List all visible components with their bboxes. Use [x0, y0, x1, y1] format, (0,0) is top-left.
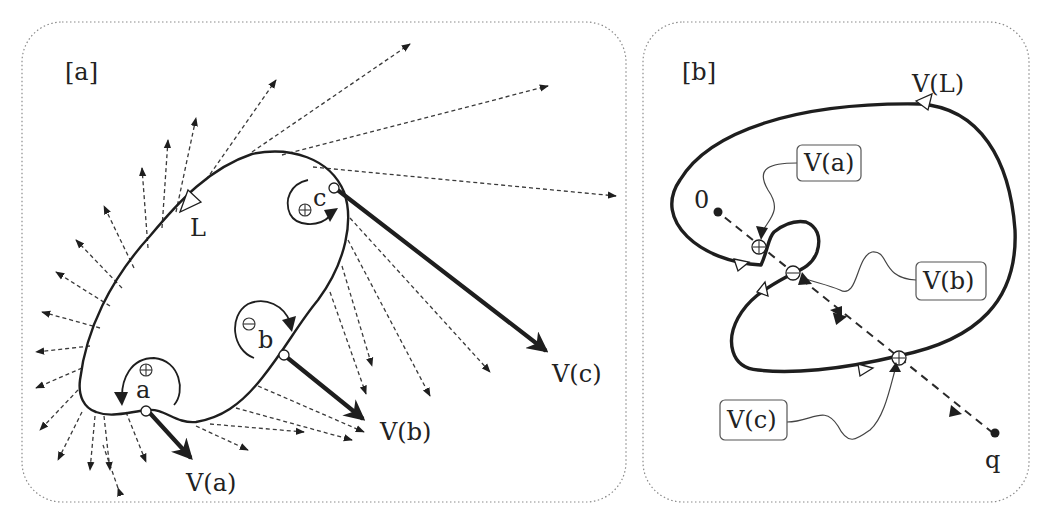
sign-minus-icon	[243, 318, 255, 330]
curve-L-direction-icon	[180, 190, 201, 212]
curve-VL-label: V(L)	[911, 70, 964, 98]
callout-Vc-label: V(c)	[726, 406, 777, 434]
vector-c-arrow	[335, 188, 545, 350]
rotation-a: a	[114, 358, 180, 406]
point-b-label: b	[258, 326, 273, 354]
curve-VL-direction-icon	[858, 364, 873, 376]
vector-b-arrow	[284, 355, 362, 418]
curve-L	[80, 152, 349, 423]
curve-VL	[672, 104, 1015, 372]
vector-c-label: V(c)	[551, 360, 602, 388]
point-c	[329, 183, 339, 193]
rotation-b: b	[235, 301, 296, 358]
curve-L-label: L	[190, 214, 206, 242]
intersection-b-minus-icon	[786, 266, 800, 280]
callout-Vb-label: V(b)	[922, 267, 974, 295]
query-label: q	[985, 446, 1000, 474]
callout-Va-label: V(a)	[803, 149, 854, 177]
callout-Vc: V(c)	[720, 362, 901, 440]
panel-b: [b] V(L) 0 q	[643, 22, 1029, 502]
point-a	[141, 406, 151, 416]
vector-field-arrows	[36, 44, 616, 488]
sign-plus-icon	[299, 204, 311, 216]
point-c-label: c	[313, 184, 326, 212]
callout-Vb: V(b)	[798, 252, 986, 300]
panel-a: L a b	[22, 22, 626, 502]
point-b	[279, 350, 289, 360]
query-point	[991, 429, 1000, 438]
origin-point	[714, 208, 723, 217]
point-a-label: a	[136, 376, 150, 404]
rotation-b-arrow-icon	[282, 316, 296, 332]
panel-b-label: [b]	[682, 58, 716, 86]
vector-b-label: V(b)	[379, 418, 431, 446]
panel-a-label: [a]	[65, 58, 98, 86]
vector-a-label: V(a)	[185, 469, 236, 497]
rotation-a-arrow-icon	[114, 392, 128, 406]
diagram-canvas: L a b	[0, 0, 1050, 527]
vector-a-arrow	[148, 411, 190, 457]
callout-Va: V(a)	[756, 145, 861, 240]
intersection-a-plus-icon	[752, 240, 766, 254]
origin-label: 0	[694, 186, 709, 214]
intersection-c-plus-icon	[892, 351, 906, 365]
sign-plus-icon	[140, 364, 152, 376]
panel-a-frame	[22, 22, 626, 502]
